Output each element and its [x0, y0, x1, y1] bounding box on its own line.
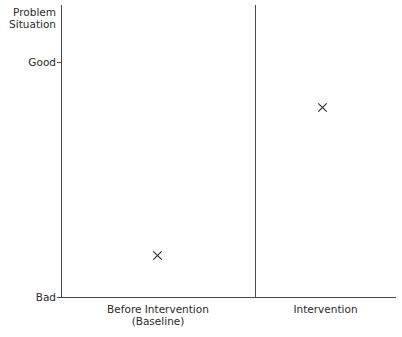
y-tick-label-bad: Bad	[36, 291, 56, 303]
y-tick-good	[57, 62, 62, 63]
x-axis-line	[61, 297, 396, 298]
chart-figure: Problem Situation Good Bad Before Interv…	[0, 0, 402, 337]
x-tick-label-intervention: Intervention	[255, 303, 396, 315]
data-point-marker	[152, 250, 163, 261]
x-tick-label-intervention-line1: Intervention	[293, 303, 357, 315]
y-tick-bad	[57, 297, 62, 298]
x-tick-label-baseline-line1: Before Intervention	[107, 303, 209, 315]
data-point-marker	[317, 102, 328, 113]
y-axis-line	[61, 5, 62, 298]
x-tick-label-baseline-line2: (Baseline)	[61, 315, 255, 327]
phase-divider-line	[255, 5, 256, 298]
y-axis-title-line1: Problem	[13, 6, 56, 18]
y-tick-label-good: Good	[28, 56, 56, 68]
y-axis-title: Problem Situation	[9, 6, 56, 30]
x-tick-label-baseline: Before Intervention (Baseline)	[61, 303, 255, 327]
y-axis-title-line2: Situation	[9, 18, 56, 30]
